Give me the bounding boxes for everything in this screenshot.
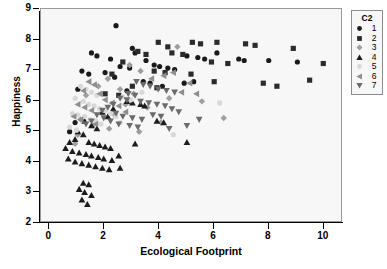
y-tick-mark	[33, 39, 39, 40]
legend-label: 7	[367, 81, 381, 91]
data-point	[62, 145, 69, 151]
y-tick-mark	[33, 161, 39, 162]
data-point	[291, 46, 296, 51]
data-point	[89, 50, 94, 55]
data-point	[140, 82, 147, 88]
data-point	[130, 84, 135, 89]
data-point	[102, 143, 109, 149]
data-point	[217, 100, 222, 105]
data-point	[295, 59, 300, 64]
data-point	[152, 69, 157, 74]
data-point	[109, 72, 114, 77]
data-point	[135, 49, 140, 54]
data-point	[79, 69, 84, 74]
y-tick-mark	[33, 130, 39, 131]
data-point	[115, 153, 122, 159]
x-tick-label: 8	[256, 231, 280, 241]
x-axis-line	[39, 222, 343, 223]
legend-title: C2	[353, 13, 381, 23]
x-tick-label: 2	[91, 231, 115, 241]
data-point	[198, 41, 203, 46]
data-point	[119, 114, 126, 120]
data-point	[120, 59, 125, 64]
data-point	[79, 160, 86, 166]
legend-marker-circle-icon	[353, 24, 367, 33]
data-point	[65, 156, 72, 162]
data-point	[212, 79, 217, 84]
data-point	[83, 92, 89, 98]
data-point	[88, 192, 95, 198]
data-point	[307, 78, 312, 83]
data-point	[95, 154, 102, 160]
data-point	[163, 88, 170, 94]
data-point	[103, 70, 108, 75]
data-point	[220, 115, 226, 121]
data-point	[108, 56, 113, 61]
data-point	[236, 56, 241, 61]
data-point	[107, 145, 114, 151]
data-point	[88, 153, 95, 159]
series-group-2	[103, 40, 326, 98]
data-point	[242, 58, 247, 63]
data-point	[74, 101, 80, 108]
data-point	[274, 84, 279, 89]
data-point	[81, 104, 87, 111]
plot-area	[40, 8, 342, 222]
data-point	[109, 157, 116, 163]
data-point	[85, 78, 91, 85]
legend-marker-circle-open-icon	[353, 62, 367, 71]
data-point	[85, 139, 92, 145]
data-point	[79, 196, 86, 202]
data-point	[180, 52, 185, 57]
legend-marker-triangle-up-icon	[353, 53, 367, 62]
data-point	[74, 128, 79, 133]
data-point	[253, 43, 258, 48]
data-point	[321, 61, 326, 66]
data-point	[110, 102, 117, 108]
data-point	[113, 23, 118, 28]
data-point	[81, 189, 88, 195]
legend-entries: 1234567	[353, 24, 381, 91]
y-tick-label: 9	[0, 3, 31, 13]
data-point	[158, 114, 165, 120]
data-point	[136, 128, 142, 134]
data-point	[102, 97, 108, 104]
data-point	[80, 131, 87, 137]
data-point	[165, 44, 170, 49]
data-point	[94, 112, 101, 118]
data-point	[137, 99, 144, 105]
data-point	[78, 84, 83, 89]
data-point	[98, 122, 103, 127]
data-point	[107, 118, 114, 124]
data-point	[88, 107, 94, 114]
data-point	[130, 46, 135, 51]
legend-entry-3: 3	[353, 43, 381, 53]
data-point	[243, 41, 248, 46]
x-tick-label: 10	[311, 231, 335, 241]
data-point	[166, 126, 173, 132]
data-point	[209, 59, 214, 64]
data-point	[261, 81, 266, 86]
data-point	[171, 90, 178, 96]
data-point	[106, 166, 113, 172]
data-point	[85, 162, 92, 168]
data-point	[178, 89, 184, 96]
scatterplot-figure: 23456789 0246810 Happiness Ecological Fo…	[0, 0, 387, 269]
data-point	[188, 72, 193, 77]
data-point	[171, 132, 176, 137]
data-point	[67, 125, 72, 130]
data-point	[139, 90, 144, 95]
data-point	[117, 86, 123, 92]
data-point	[96, 142, 103, 148]
data-point	[169, 106, 176, 112]
data-point	[91, 81, 97, 88]
data-point	[92, 103, 97, 108]
x-tick-label: 6	[201, 231, 225, 241]
data-point	[83, 151, 90, 157]
x-tick-mark	[268, 223, 269, 229]
x-tick-label: 4	[146, 231, 170, 241]
data-point	[73, 96, 78, 101]
data-point	[149, 112, 156, 118]
data-point	[137, 68, 143, 74]
legend-entry-7: 7	[353, 81, 381, 91]
